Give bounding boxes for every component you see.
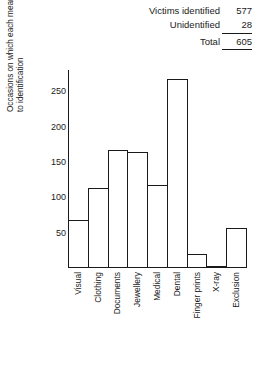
y-axis-ticks: 50100150200250 bbox=[28, 0, 66, 366]
bars-container bbox=[68, 70, 246, 268]
bar bbox=[108, 150, 129, 268]
x-tick-label: Documents bbox=[112, 272, 122, 314]
x-tick-label: Finger prints bbox=[192, 272, 202, 319]
x-tick-label: X-ray bbox=[211, 272, 221, 292]
x-label-cell: Finger prints bbox=[187, 272, 207, 364]
y-tick-label: 100 bbox=[32, 192, 66, 202]
x-label-cell: Visual bbox=[68, 272, 88, 364]
y-axis-title-line-2: to identification bbox=[16, 0, 26, 112]
x-axis-labels: VisualClothingDocumentsJewelleryMedicalD… bbox=[68, 272, 246, 364]
x-label-cell: Jewellery bbox=[127, 272, 147, 364]
x-label-cell: X-ray bbox=[206, 272, 226, 364]
x-label-cell: Exclusion bbox=[226, 272, 246, 364]
x-label-cell: Documents bbox=[108, 272, 128, 364]
bar bbox=[68, 220, 89, 268]
x-tick-label: Medical bbox=[152, 272, 162, 301]
y-tick-label: 200 bbox=[32, 122, 66, 132]
bar-chart: Occasions on which each means contribute… bbox=[0, 0, 260, 366]
bar bbox=[226, 228, 247, 268]
x-tick-label: Dental bbox=[172, 272, 182, 296]
x-tick-label: Visual bbox=[73, 272, 83, 295]
x-tick-label: Exclusion bbox=[231, 272, 241, 308]
bar bbox=[127, 152, 148, 268]
bar bbox=[167, 79, 188, 269]
x-tick-label: Clothing bbox=[93, 272, 103, 303]
x-label-cell: Clothing bbox=[88, 272, 108, 364]
bar bbox=[206, 266, 227, 268]
x-label-cell: Dental bbox=[167, 272, 187, 364]
y-tick-label: 250 bbox=[32, 86, 66, 96]
x-label-cell: Medical bbox=[147, 272, 167, 364]
y-tick-label: 50 bbox=[32, 228, 66, 238]
bar bbox=[147, 185, 168, 268]
plot-area bbox=[68, 70, 246, 268]
y-axis-title-line-1: Occasions on which each means contribute… bbox=[6, 0, 16, 112]
bar bbox=[88, 188, 109, 268]
bar bbox=[187, 254, 208, 268]
x-tick-label: Jewellery bbox=[132, 272, 142, 307]
y-tick-label: 150 bbox=[32, 157, 66, 167]
